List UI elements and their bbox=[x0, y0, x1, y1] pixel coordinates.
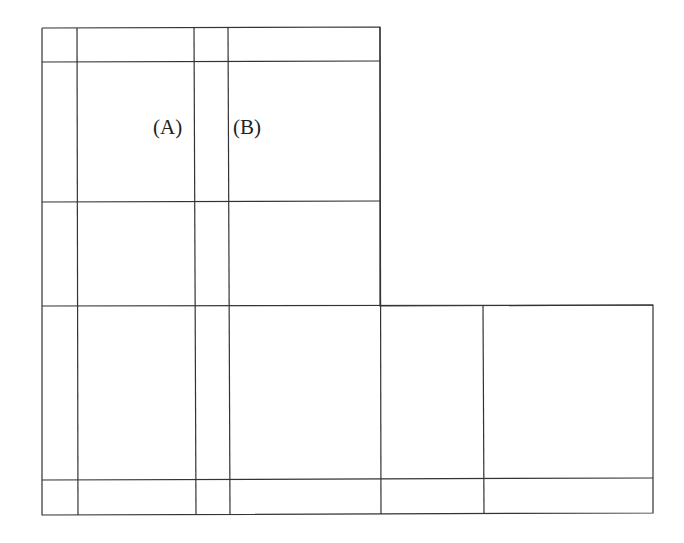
col-line-194 bbox=[194, 28, 196, 514]
panel-label-b: (B) bbox=[233, 117, 261, 138]
col-line-77 bbox=[77, 28, 78, 515]
row-line-62 bbox=[42, 61, 380, 62]
col-line-380 bbox=[380, 27, 381, 514]
outer-outline bbox=[42, 27, 653, 515]
row-line-479 bbox=[42, 478, 653, 480]
box-net-diagram bbox=[0, 0, 684, 543]
col-line-483 bbox=[483, 305, 484, 513]
row-line-202 bbox=[42, 201, 380, 202]
col-line-228 bbox=[228, 27, 230, 514]
panel-label-a: (A) bbox=[153, 117, 182, 138]
